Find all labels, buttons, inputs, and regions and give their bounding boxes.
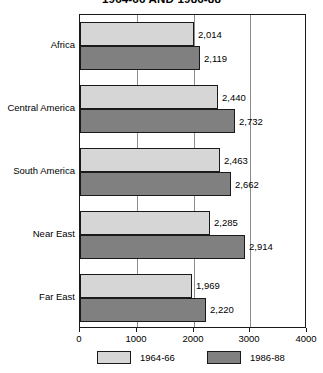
bar-value-label: 2,220 xyxy=(210,304,234,315)
bar-group: 1,9692,220 xyxy=(80,274,307,322)
tick-label: 1000 xyxy=(125,333,146,344)
tick-label: 2000 xyxy=(182,333,203,344)
legend-label: 1964-66 xyxy=(140,351,175,364)
bar-value-label: 2,662 xyxy=(235,179,259,190)
bar xyxy=(80,235,245,259)
legend-label: 1986-88 xyxy=(250,351,285,364)
bar-group: 2,4632,662 xyxy=(80,148,307,196)
bar-value-label: 2,014 xyxy=(198,29,222,40)
tick-mark xyxy=(136,328,137,332)
tick-mark xyxy=(249,328,250,332)
bar-value-label: 2,463 xyxy=(224,155,248,166)
tick-label: 0 xyxy=(76,333,81,344)
legend-item[interactable]: 1986-88 xyxy=(207,351,285,364)
bar xyxy=(80,85,218,109)
bar-group: 2,4402,732 xyxy=(80,85,307,133)
bar xyxy=(80,109,235,133)
legend-swatch xyxy=(207,351,241,364)
plot-area: 2,0142,1192,4402,7322,4632,6622,2852,914… xyxy=(79,14,306,328)
bar-value-label: 2,914 xyxy=(249,241,273,252)
bar xyxy=(80,46,200,70)
chart-legend: 1964-661986-88 xyxy=(0,351,323,369)
bar-group: 2,2852,914 xyxy=(80,211,307,259)
tick-mark xyxy=(193,328,194,332)
category-label: Far East xyxy=(1,291,75,302)
legend-swatch xyxy=(97,351,131,364)
bar-group: 2,0142,119 xyxy=(80,22,307,70)
legend-item[interactable]: 1964-66 xyxy=(97,351,175,364)
bar xyxy=(80,148,220,172)
bar-value-label: 2,285 xyxy=(214,217,238,228)
bar xyxy=(80,274,192,298)
category-label: Central America xyxy=(1,102,75,113)
bar-value-label: 2,119 xyxy=(204,53,227,64)
tick-label: 4000 xyxy=(295,333,316,344)
category-label: Near East xyxy=(1,228,75,239)
bar-value-label: 2,440 xyxy=(222,92,246,103)
category-axis: AfricaCentral AmericaSouth AmericaNear E… xyxy=(0,14,75,328)
category-label: South America xyxy=(1,165,75,176)
category-label: Africa xyxy=(1,39,75,50)
tick-mark xyxy=(306,328,307,332)
tick-label: 3000 xyxy=(238,333,259,344)
tick-mark xyxy=(79,328,80,332)
bar xyxy=(80,22,194,46)
bar-chart: 1964-66 AND 1986-88 AfricaCentral Americ… xyxy=(0,0,323,373)
bar-value-label: 2,732 xyxy=(239,116,263,127)
bar-value-label: 1,969 xyxy=(196,280,220,291)
chart-title: 1964-66 AND 1986-88 xyxy=(0,0,323,6)
bar xyxy=(80,298,206,322)
value-axis: 01000200030004000 xyxy=(79,328,306,346)
bar xyxy=(80,172,231,196)
bar xyxy=(80,211,210,235)
